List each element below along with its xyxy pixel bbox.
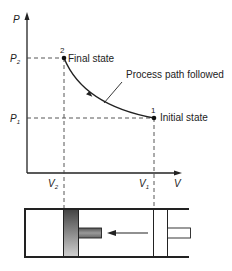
x-axis-arrow-icon bbox=[174, 171, 182, 176]
process-curve bbox=[64, 58, 154, 118]
p1-label: P1 bbox=[10, 113, 20, 125]
v1-label: V1 bbox=[139, 178, 149, 190]
x-axis-label: V bbox=[174, 178, 182, 189]
y-axis-label: P bbox=[13, 14, 20, 25]
curve-direction-arrow-icon bbox=[86, 91, 93, 98]
piston-rod-initial bbox=[168, 228, 191, 238]
pv-diagram: P V P2 P1 V2 V1 2 1 Final state Initial … bbox=[0, 0, 232, 271]
point-2 bbox=[62, 56, 67, 61]
guide-lines bbox=[27, 58, 154, 210]
annotation-leader-line bbox=[104, 82, 122, 103]
v2-label: V2 bbox=[48, 178, 59, 190]
motion-arrow-icon bbox=[107, 230, 116, 236]
initial-state-label: Initial state bbox=[160, 112, 208, 123]
p2-label: P2 bbox=[10, 53, 21, 65]
piston-initial bbox=[154, 210, 168, 257]
x-axis bbox=[27, 171, 182, 176]
point-2-id: 2 bbox=[60, 46, 65, 55]
y-axis-arrow-icon bbox=[25, 12, 30, 20]
piston-final bbox=[64, 210, 79, 257]
point-1 bbox=[152, 116, 157, 121]
cylinder bbox=[24, 208, 189, 258]
point-1-id: 1 bbox=[151, 106, 156, 115]
final-state-label: Final state bbox=[68, 53, 115, 64]
process-path-label: Process path followed bbox=[126, 69, 224, 80]
y-axis bbox=[25, 12, 30, 173]
piston-rod-final bbox=[79, 228, 102, 238]
